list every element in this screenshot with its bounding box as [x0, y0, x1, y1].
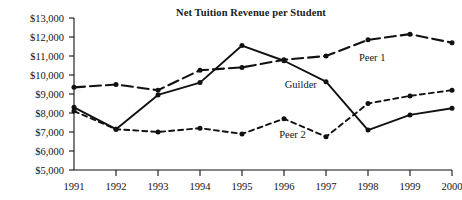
data-point-marker: [366, 101, 371, 106]
series-annotation-peer-2: Peer 2: [279, 129, 306, 140]
x-axis-tick-label: 1999: [400, 181, 421, 192]
y-axis-tick-label: $12,000: [30, 32, 64, 43]
data-point-marker: [156, 130, 161, 135]
data-series-group: [72, 32, 455, 140]
y-axis-tick-label: $6,000: [35, 146, 64, 157]
x-axis-tick-label: 1991: [64, 181, 85, 192]
data-point-marker: [450, 88, 455, 93]
data-point-marker: [366, 128, 371, 133]
data-point-marker: [72, 109, 77, 114]
data-point-marker: [450, 40, 455, 45]
y-axis-tick-label: $7,000: [35, 127, 64, 138]
y-axis-tick-label: $9,000: [35, 89, 64, 100]
y-axis-tick-label: $8,000: [35, 108, 64, 119]
data-point-marker: [114, 82, 119, 87]
series-annotation-guilder: Guilder: [285, 79, 318, 90]
data-point-marker: [72, 85, 77, 90]
series-line-0: [74, 46, 452, 131]
data-point-marker: [156, 88, 161, 93]
series-annotation-peer-1: Peer 1: [359, 52, 386, 63]
x-axis-tick-label: 1994: [190, 181, 212, 192]
data-point-marker: [450, 106, 455, 111]
data-point-marker: [366, 37, 371, 42]
x-axis-tick-label: 1998: [358, 181, 379, 192]
series-annotations: Peer 1GuilderPeer 2: [279, 52, 385, 140]
series-line-2: [74, 90, 452, 137]
y-axis-tick-label: $5,000: [35, 165, 64, 176]
y-axis-tick-label: $11,000: [30, 51, 64, 62]
data-point-marker: [408, 32, 413, 37]
data-point-marker: [240, 65, 245, 70]
series-peer-1: [72, 32, 455, 93]
data-point-marker: [324, 134, 329, 139]
y-axis-tick-marks: [69, 18, 74, 170]
data-point-marker: [156, 92, 161, 97]
x-axis-tick-label: 1992: [106, 181, 127, 192]
series-line-1: [74, 34, 452, 90]
series-guilder: [72, 43, 455, 133]
y-axis-tick-label: $10,000: [30, 70, 64, 81]
x-axis-tick-label: 1996: [274, 181, 295, 192]
x-axis-tick-label: 2000: [442, 181, 462, 192]
data-point-marker: [408, 112, 413, 117]
chart-container: Net Tuition Revenue per Student $5,000$6…: [0, 0, 462, 200]
data-point-marker: [198, 68, 203, 73]
data-point-marker: [324, 54, 329, 59]
data-point-marker: [408, 93, 413, 98]
x-axis-tick-marks: [116, 170, 452, 176]
y-axis-tick-labels: $5,000$6,000$7,000$8,000$9,000$10,000$11…: [30, 13, 64, 176]
line-chart-plot: $5,000$6,000$7,000$8,000$9,000$10,000$11…: [0, 0, 462, 200]
data-point-marker: [198, 126, 203, 131]
x-axis-tick-label: 1997: [316, 181, 337, 192]
data-point-marker: [282, 57, 287, 62]
x-axis-tick-label: 1993: [148, 181, 169, 192]
data-point-marker: [240, 131, 245, 136]
y-axis-tick-label: $13,000: [30, 13, 64, 24]
series-peer-2: [72, 88, 455, 140]
x-axis-tick-label: 1995: [232, 181, 253, 192]
data-point-marker: [198, 80, 203, 85]
data-point-marker: [324, 79, 329, 84]
data-point-marker: [240, 43, 245, 48]
data-point-marker: [114, 127, 119, 132]
data-point-marker: [282, 116, 287, 121]
x-axis-tick-labels: 1991199219931994199519961997199819992000: [64, 181, 462, 192]
